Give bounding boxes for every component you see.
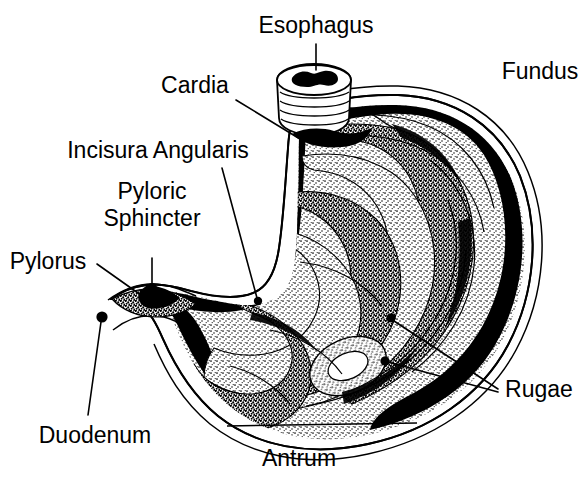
dot-pylorus (142, 295, 152, 305)
label-incisura-angularis: Incisura Angularis (67, 137, 249, 163)
label-pyloric-sphincter-line2: Sphincter (103, 205, 201, 231)
diagram-canvas: Esophagus Fundus Cardia Incisura Angular… (0, 0, 588, 477)
leader-incisura-angularis (222, 168, 257, 298)
dot-incisura-angularis (254, 297, 262, 305)
label-pylorus: Pylorus (10, 248, 87, 274)
leader-duodenum (88, 322, 101, 415)
dot-rugae-upper (386, 313, 395, 322)
dot-rugae-lower (380, 356, 389, 365)
label-cardia: Cardia (161, 72, 229, 98)
label-fundus: Fundus (502, 58, 579, 84)
dot-duodenum (96, 311, 107, 322)
stomach-body-structure (108, 64, 550, 460)
label-duodenum: Duodenum (39, 422, 152, 448)
label-antrum: Antrum (262, 445, 336, 471)
stomach-anatomy-diagram: Esophagus Fundus Cardia Incisura Angular… (0, 0, 588, 477)
dot-pyloric-sphincter (147, 283, 157, 293)
label-esophagus: Esophagus (258, 12, 373, 38)
label-rugae: Rugae (505, 376, 573, 402)
label-pyloric-sphincter-line1: Pyloric (117, 178, 186, 204)
